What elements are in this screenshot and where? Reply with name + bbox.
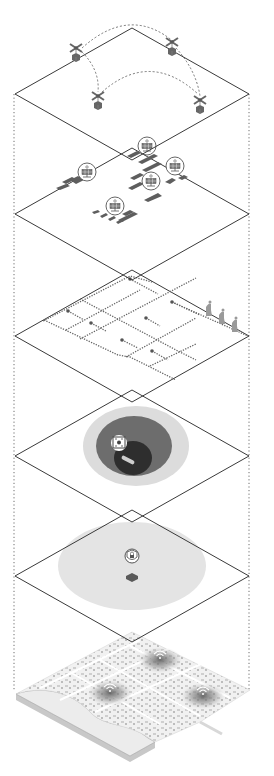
sensor-node-icon xyxy=(66,309,70,313)
wifi-hotspot-icon xyxy=(181,683,225,709)
network-paths xyxy=(43,276,248,380)
drone-icon xyxy=(70,44,82,62)
pedestrian-figures xyxy=(206,301,238,333)
drone-icon xyxy=(194,96,206,114)
person-figure-icon xyxy=(206,301,212,317)
lock-shield-icon xyxy=(125,549,139,563)
pier xyxy=(200,722,222,734)
security-zone xyxy=(58,522,206,610)
solar-panel-icon xyxy=(106,197,124,215)
data-chip-icon xyxy=(111,435,127,451)
data-hub-coverage-layer xyxy=(15,390,249,522)
solar-energy-layer xyxy=(15,137,249,280)
sensor-node-icon xyxy=(170,300,174,304)
plane-outline xyxy=(15,270,249,402)
plane-outline xyxy=(15,28,249,160)
wifi-hotspot-icon xyxy=(138,647,182,673)
sensor-node-icon xyxy=(144,316,148,320)
sensor-node-icon xyxy=(120,338,124,342)
drone-delivery-layer xyxy=(15,25,249,160)
security-coverage-layer xyxy=(15,510,249,642)
person-figure-icon xyxy=(219,309,225,325)
layered-city-diagram xyxy=(0,0,274,776)
solar-panel-icon xyxy=(78,163,96,181)
wifi-hotspot-icon xyxy=(88,680,132,706)
delivery-drones xyxy=(70,38,206,114)
sensor-network-layer xyxy=(15,270,249,402)
person-figure-icon xyxy=(232,317,238,333)
flight-paths xyxy=(82,25,200,96)
sensor-node-icon xyxy=(150,349,154,353)
solar-panel-icon xyxy=(138,137,156,155)
drone-icon xyxy=(92,92,104,110)
solar-panel-icon xyxy=(142,172,160,190)
sensor-node-icon xyxy=(89,321,93,325)
sensor-nodes xyxy=(66,277,174,353)
city-base-layer xyxy=(16,632,250,762)
solar-panel-icon xyxy=(166,157,184,175)
